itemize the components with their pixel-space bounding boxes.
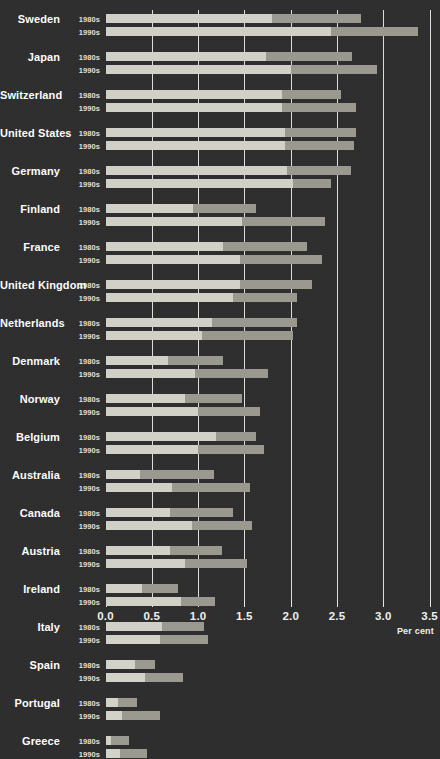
bar-netherlands-1990s [106, 331, 294, 340]
bar-segment-2 [170, 508, 233, 517]
bar-segment-2 [145, 673, 183, 682]
decade-label-1990s: 1990s [62, 218, 100, 227]
country-label-greece: Greece [0, 735, 60, 747]
bar-segment-1 [106, 90, 283, 99]
bar-segment-2 [170, 546, 222, 555]
bar-denmark-1980s [106, 356, 224, 365]
bar-norway-1980s [106, 394, 242, 403]
gridline-3-5 [430, 10, 431, 600]
bar-segment-2 [216, 432, 256, 441]
bar-france-1990s [106, 255, 323, 264]
bar-segment-2 [287, 166, 351, 175]
bar-segment-1 [106, 217, 242, 226]
bar-segment-2 [160, 635, 208, 644]
bar-segment-1 [106, 103, 283, 112]
bar-belgium-1980s [106, 432, 256, 441]
bar-segment-2 [193, 204, 256, 213]
bar-segment-2 [185, 559, 247, 568]
bar-finland-1990s [106, 217, 325, 226]
bar-segment-1 [106, 280, 240, 289]
bar-segment-2 [192, 521, 252, 530]
bar-segment-1 [106, 445, 199, 454]
x-tickmark [244, 600, 245, 607]
bar-segment-1 [106, 179, 294, 188]
bar-segment-1 [106, 128, 286, 137]
bar-segment-1 [106, 318, 212, 327]
country-label-netherlands: Netherlands [0, 317, 60, 329]
bar-segment-1 [106, 52, 266, 61]
bar-segment-2 [266, 52, 352, 61]
bar-italy-1990s [106, 635, 209, 644]
bar-segment-2 [293, 179, 330, 188]
bar-segment-2 [240, 255, 322, 264]
x-tick-label: 1.5 [224, 610, 264, 622]
bar-segment-1 [106, 673, 146, 682]
decade-label-1990s: 1990s [62, 180, 100, 189]
decade-label-1990s: 1990s [62, 522, 100, 531]
bar-segment-2 [181, 597, 214, 606]
x-tick-label: 0.5 [132, 610, 172, 622]
bar-segment-2 [142, 584, 178, 593]
bar-segment-2 [168, 356, 223, 365]
bar-segment-2 [242, 217, 325, 226]
decade-label-1990s: 1990s [62, 674, 100, 683]
bar-segment-1 [106, 584, 142, 593]
decade-label-1980s: 1980s [62, 661, 100, 670]
bar-segment-2 [285, 141, 354, 150]
bar-segment-2 [240, 280, 312, 289]
decade-label-1990s: 1990s [62, 66, 100, 75]
country-label-ireland: Ireland [0, 583, 60, 595]
bar-portugal-1980s [106, 698, 137, 707]
bar-sweden-1980s [106, 14, 362, 23]
bar-canada-1990s [106, 521, 252, 530]
bar-segment-2 [202, 331, 294, 340]
country-label-italy: Italy [0, 621, 60, 633]
country-label-portugal: Portugal [0, 697, 60, 709]
bar-segment-2 [162, 622, 204, 631]
bar-segment-1 [106, 356, 169, 365]
bar-segment-2 [285, 128, 356, 137]
decade-label-1990s: 1990s [62, 598, 100, 607]
country-label-denmark: Denmark [0, 355, 60, 367]
bar-segment-2 [282, 103, 356, 112]
bar-segment-2 [122, 711, 160, 720]
country-label-united-kingdom: United Kingdom [0, 279, 60, 291]
x-tick-label: 3.5 [410, 610, 440, 622]
x-tickmark [430, 600, 431, 607]
decade-label-1990s: 1990s [62, 408, 100, 417]
decade-label-1990s: 1990s [62, 560, 100, 569]
x-tick-label: 0.0 [86, 610, 126, 622]
country-label-australia: Australia [0, 469, 60, 481]
decade-label-1990s: 1990s [62, 636, 100, 645]
country-label-norway: Norway [0, 393, 60, 405]
bar-segment-2 [198, 407, 260, 416]
country-label-belgium: Belgium [0, 431, 60, 443]
bar-belgium-1990s [106, 445, 264, 454]
decade-label-1980s: 1980s [62, 699, 100, 708]
bar-segment-1 [106, 407, 199, 416]
decade-label-1980s: 1980s [62, 471, 100, 480]
bar-segment-1 [106, 432, 216, 441]
bar-italy-1980s [106, 622, 204, 631]
decade-label-1980s: 1980s [62, 433, 100, 442]
country-label-france: France [0, 241, 60, 253]
bar-segment-1 [106, 242, 224, 251]
decade-label-1980s: 1980s [62, 585, 100, 594]
bar-segment-2 [120, 749, 147, 758]
decade-label-1990s: 1990s [62, 256, 100, 265]
bar-greece-1990s [106, 749, 148, 758]
country-label-sweden: Sweden [0, 13, 60, 25]
bar-segment-2 [198, 445, 264, 454]
decade-label-1980s: 1980s [62, 395, 100, 404]
bar-germany-1990s [106, 179, 331, 188]
bar-segment-2 [185, 394, 241, 403]
country-label-japan: Japan [0, 51, 60, 63]
bar-segment-1 [106, 521, 192, 530]
bar-segment-1 [106, 14, 273, 23]
bar-segment-2 [223, 242, 307, 251]
bar-segment-1 [106, 204, 194, 213]
bar-segment-2 [282, 90, 340, 99]
bar-segment-1 [106, 711, 123, 720]
gridline-3-0 [383, 10, 384, 600]
bar-austria-1990s [106, 559, 248, 568]
